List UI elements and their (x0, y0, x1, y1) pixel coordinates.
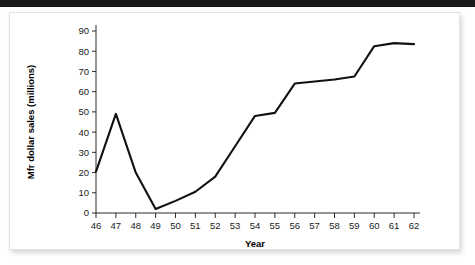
x-tick-label: 60 (369, 220, 380, 231)
x-axis: 4647484950515253545556575859606162 (91, 213, 420, 231)
x-tick-label: 55 (270, 220, 281, 231)
x-axis-title: Year (245, 238, 265, 249)
top-dark-bar (0, 0, 475, 7)
y-tick-label: 0 (84, 207, 89, 218)
y-tick-label: 30 (78, 147, 89, 158)
figure-card: 0102030405060708090 46474849505152535455… (9, 12, 460, 250)
x-tick-label: 59 (349, 220, 360, 231)
screenshot-page: 0102030405060708090 46474849505152535455… (0, 0, 475, 265)
x-tick-label: 61 (389, 220, 400, 231)
x-tick-label: 57 (309, 220, 320, 231)
y-tick-label: 20 (78, 167, 89, 178)
x-tick-label: 54 (250, 220, 261, 231)
x-tick-label: 52 (210, 220, 221, 231)
y-tick-label: 90 (78, 25, 89, 36)
x-tick-label: 58 (329, 220, 340, 231)
x-tick-label: 46 (91, 220, 102, 231)
y-tick-label: 80 (78, 46, 89, 57)
x-tick-label: 49 (150, 220, 161, 231)
x-tick-label: 62 (409, 220, 420, 231)
y-tick-label: 50 (78, 106, 89, 117)
y-tick-label: 40 (78, 127, 89, 138)
x-tick-label: 53 (230, 220, 241, 231)
x-tick-label: 47 (111, 220, 122, 231)
x-tick-label: 51 (190, 220, 201, 231)
x-tick-label: 48 (130, 220, 141, 231)
y-axis: 0102030405060708090 (78, 25, 96, 218)
line-chart: 0102030405060708090 46474849505152535455… (10, 13, 461, 251)
sales-line-series (96, 43, 414, 209)
y-tick-label: 10 (78, 187, 89, 198)
x-tick-label: 50 (170, 220, 181, 231)
y-tick-label: 70 (78, 66, 89, 77)
y-axis-title: Mfr dollar sales (millions) (25, 65, 36, 180)
y-tick-label: 60 (78, 86, 89, 97)
x-tick-label: 56 (289, 220, 300, 231)
